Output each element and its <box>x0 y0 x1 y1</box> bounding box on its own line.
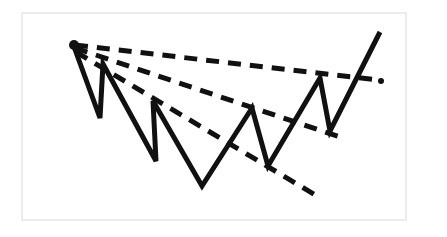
chart-plot-svg <box>0 0 447 237</box>
upper-trendline-terminal-dot <box>378 78 384 84</box>
apex-marker <box>69 40 79 50</box>
price-zigzag-line <box>73 32 380 186</box>
chart-image-root <box>0 0 447 237</box>
price-line-group <box>73 32 380 186</box>
